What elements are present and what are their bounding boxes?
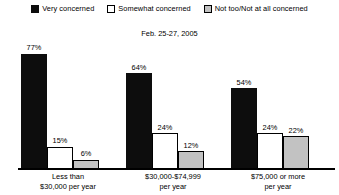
bar-very-concerned xyxy=(21,54,47,170)
bar-value-label: 6% xyxy=(69,149,103,158)
legend-item-not-concerned: Not too/Not at all concerned xyxy=(204,5,308,13)
category-label-line: $30,000-$74,999 xyxy=(118,172,228,182)
chart-legend: Very concerned Somewhat concerned Not to… xyxy=(0,3,339,15)
category-label-high-income: $75,000 or more per year xyxy=(223,172,333,191)
bar-group: 64% 24% 12% xyxy=(126,40,220,169)
category-label-line: Less than xyxy=(13,172,123,182)
category-label-line: per year xyxy=(223,182,333,192)
bar-slot: 22% xyxy=(283,40,309,169)
bar-slot: 77% xyxy=(21,40,47,169)
bar-not-concerned xyxy=(283,136,309,169)
category-label-low-income: Less than $30,000 per year xyxy=(13,172,123,191)
bar-group: 77% 15% 6% xyxy=(21,40,115,169)
bar-slot: 64% xyxy=(126,40,152,169)
bar-slot: 24% xyxy=(152,40,178,169)
category-label-line: per year xyxy=(118,182,228,192)
legend-item-label: Not too/Not at all concerned xyxy=(215,5,308,13)
bar-value-label: 12% xyxy=(174,141,208,150)
bar-very-concerned xyxy=(126,73,152,169)
filled-square-white-icon xyxy=(107,5,115,13)
bar-somewhat-concerned xyxy=(152,133,178,169)
bar-slot: 6% xyxy=(73,40,99,169)
plot-area: 77% 15% 6% 64% 24% 12% 54% xyxy=(18,40,335,169)
bar-value-label: 54% xyxy=(227,78,261,87)
bar-slot: 12% xyxy=(178,40,204,169)
legend-item-label: Very concerned xyxy=(42,5,94,13)
bar-slot: 54% xyxy=(231,40,257,169)
legend-item-label: Somewhat concerned xyxy=(118,5,190,13)
category-label-line: $75,000 or more xyxy=(223,172,333,182)
filled-square-gray-icon xyxy=(204,5,212,13)
chart-subtitle-date: Feb. 25-27, 2005 xyxy=(0,29,339,38)
x-axis-baseline xyxy=(18,168,335,170)
legend-item-somewhat-concerned: Somewhat concerned xyxy=(107,5,190,13)
bar-value-label: 15% xyxy=(43,136,77,145)
bar-value-label: 64% xyxy=(122,63,156,72)
bar-value-label: 24% xyxy=(148,123,182,132)
bar-value-label: 77% xyxy=(17,43,51,52)
bar-group: 54% 24% 22% xyxy=(231,40,325,169)
category-label-line: $30,000 per year xyxy=(13,182,123,192)
category-label-mid-income: $30,000-$74,999 per year xyxy=(118,172,228,191)
bar-slot: 24% xyxy=(257,40,283,169)
bar-somewhat-concerned xyxy=(257,133,283,169)
bar-not-concerned xyxy=(178,151,204,169)
legend-item-very-concerned: Very concerned xyxy=(31,5,94,13)
bar-value-label: 22% xyxy=(279,126,313,135)
filled-square-black-icon xyxy=(31,5,39,13)
